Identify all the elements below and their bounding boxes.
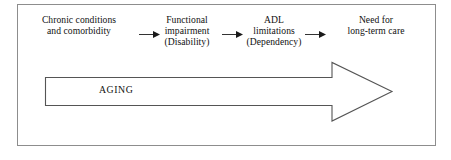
right-arrow-icon <box>222 25 244 43</box>
flow-node-line: Functional <box>148 14 226 25</box>
flow-node-line: ADL <box>232 14 316 25</box>
flow-node-line: long-term care <box>322 25 430 36</box>
right-arrow-icon <box>139 25 161 43</box>
flow-node-need-for-long-term-care: Need for long-term care <box>322 14 430 36</box>
figure-container: Chronic conditions and comorbidity Funct… <box>0 0 451 160</box>
flow-node-line: and comorbidity <box>23 25 135 36</box>
flow-node-line: limitations <box>232 25 316 36</box>
flow-node-chronic-conditions: Chronic conditions and comorbidity <box>23 14 135 36</box>
flow-node-line: Need for <box>322 14 430 25</box>
flow-sequence: Chronic conditions and comorbidity Funct… <box>17 10 436 56</box>
block-right-arrow-icon <box>44 54 404 130</box>
flow-node-line: (Dependency) <box>232 36 316 47</box>
aging-label: AGING <box>99 84 133 96</box>
flow-node-adl-limitations: ADL limitations (Dependency) <box>232 14 316 48</box>
right-arrow-icon <box>305 25 327 43</box>
flow-node-line: Chronic conditions <box>23 14 135 25</box>
